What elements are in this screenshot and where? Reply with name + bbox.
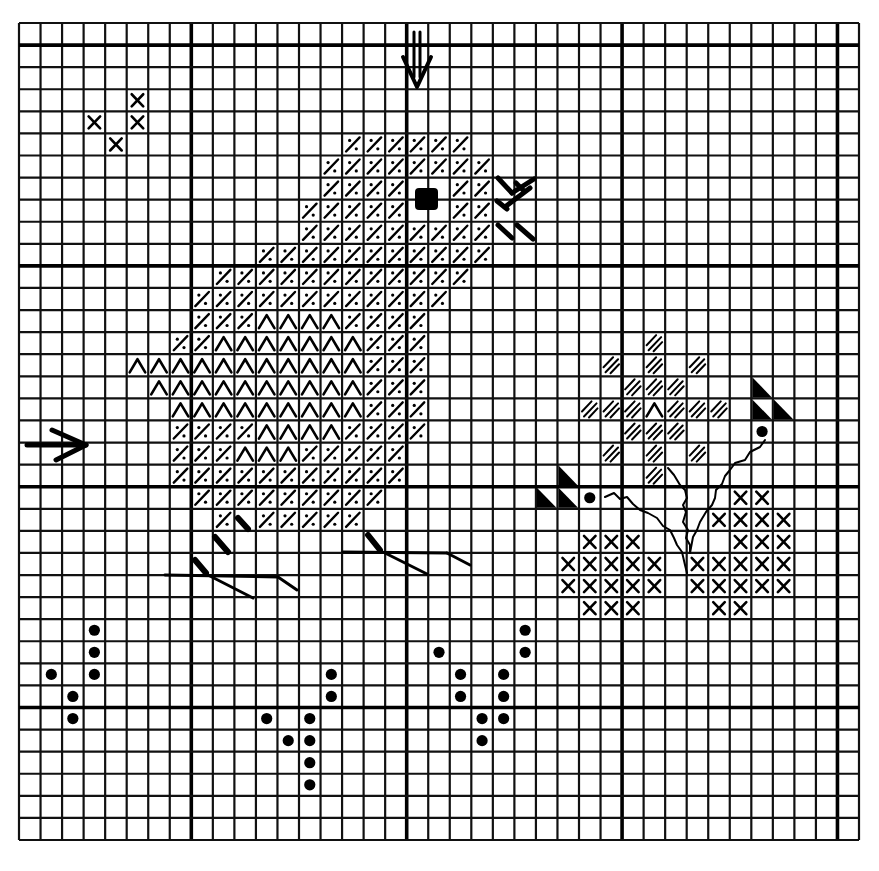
dot-mark xyxy=(219,426,222,429)
dot-mark xyxy=(484,191,487,194)
dot-mark xyxy=(419,412,422,415)
dot-mark xyxy=(413,316,416,319)
dot-mark xyxy=(391,139,394,142)
dot-mark xyxy=(290,478,293,481)
dot-mark xyxy=(333,214,336,217)
dot-mark xyxy=(462,169,465,172)
dot-mark xyxy=(419,169,422,172)
dot-mark xyxy=(333,501,336,504)
dot-mark xyxy=(219,492,222,495)
dot-mark xyxy=(477,227,480,230)
dot-mark xyxy=(326,492,329,495)
dot-mark xyxy=(355,280,358,283)
dot-mark xyxy=(370,360,373,363)
dot-mark xyxy=(219,514,222,517)
dot-mark xyxy=(355,456,358,459)
french-knot-dot xyxy=(89,647,100,658)
cross-stitch-chart: Cross-stitch chart: chick with flowers xyxy=(0,0,879,871)
dot-mark xyxy=(434,227,437,230)
dot-mark xyxy=(370,382,373,385)
dot-mark xyxy=(441,280,444,283)
french-knot-dot xyxy=(756,426,767,437)
dot-mark xyxy=(413,271,416,274)
dot-mark xyxy=(204,302,207,305)
dot-mark xyxy=(398,412,401,415)
dot-mark xyxy=(348,271,351,274)
dot-mark xyxy=(462,258,465,261)
dot-mark xyxy=(262,271,265,274)
dot-mark xyxy=(269,501,272,504)
dot-mark xyxy=(456,249,459,252)
dot-mark xyxy=(182,478,185,481)
dot-mark xyxy=(413,360,416,363)
dot-mark xyxy=(391,249,394,252)
dot-mark xyxy=(419,302,422,305)
dot-mark xyxy=(391,426,394,429)
dot-mark xyxy=(269,302,272,305)
dot-mark xyxy=(398,478,401,481)
dot-mark xyxy=(283,293,286,296)
dot-mark xyxy=(376,191,379,194)
dot-mark xyxy=(462,214,465,217)
french-knot-dot xyxy=(498,691,509,702)
french-knot-dot xyxy=(476,735,487,746)
dot-mark xyxy=(441,169,444,172)
dot-mark xyxy=(262,492,265,495)
french-knot-dot xyxy=(326,691,337,702)
dot-mark xyxy=(441,258,444,261)
french-knot-dot xyxy=(304,735,315,746)
dot-mark xyxy=(391,382,394,385)
dot-mark xyxy=(176,448,179,451)
dot-mark xyxy=(376,412,379,415)
dot-mark xyxy=(419,434,422,437)
dot-mark xyxy=(391,470,394,473)
dot-mark xyxy=(305,205,308,208)
dot-mark xyxy=(333,478,336,481)
french-knot-dot xyxy=(520,625,531,636)
dot-mark xyxy=(484,236,487,239)
french-knot-dot xyxy=(455,669,466,680)
dot-mark xyxy=(305,470,308,473)
dot-mark xyxy=(355,236,358,239)
dot-mark xyxy=(370,205,373,208)
dot-mark xyxy=(484,258,487,261)
dot-mark xyxy=(413,161,416,164)
dot-mark xyxy=(225,456,228,459)
dot-mark xyxy=(376,390,379,393)
dot-mark xyxy=(370,492,373,495)
dot-mark xyxy=(326,183,329,186)
dot-mark xyxy=(419,258,422,261)
dot-mark xyxy=(370,161,373,164)
dot-mark xyxy=(434,161,437,164)
dot-mark xyxy=(247,324,250,327)
dot-mark xyxy=(247,280,250,283)
french-knot-dot xyxy=(304,713,315,724)
paper-background xyxy=(0,0,879,871)
dot-mark xyxy=(348,227,351,230)
dot-mark xyxy=(355,434,358,437)
dot-mark xyxy=(333,169,336,172)
dot-mark xyxy=(477,183,480,186)
french-knot-dot xyxy=(89,669,100,680)
dot-mark xyxy=(419,346,422,349)
dot-mark xyxy=(376,324,379,327)
french-knot-dot xyxy=(67,713,78,724)
dot-mark xyxy=(225,501,228,504)
dot-mark xyxy=(434,271,437,274)
dot-mark xyxy=(419,147,422,150)
dot-mark xyxy=(312,302,315,305)
dot-mark xyxy=(204,346,207,349)
dot-mark xyxy=(312,236,315,239)
dot-mark xyxy=(477,205,480,208)
dot-mark xyxy=(247,302,250,305)
dot-mark xyxy=(355,302,358,305)
dot-mark xyxy=(240,426,243,429)
dot-mark xyxy=(225,434,228,437)
dot-mark xyxy=(333,302,336,305)
dot-mark xyxy=(419,324,422,327)
dot-mark xyxy=(326,448,329,451)
dot-mark xyxy=(204,324,207,327)
dot-mark xyxy=(240,316,243,319)
dot-mark xyxy=(398,258,401,261)
dot-mark xyxy=(398,280,401,283)
